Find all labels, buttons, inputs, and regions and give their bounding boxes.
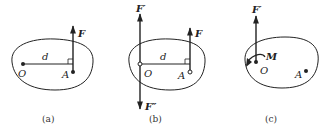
- label-O: O: [18, 68, 26, 79]
- right-angle-mark: [185, 59, 190, 64]
- force-translation-diagram: d O A F (a) d O A F F′ F″ (b) F′ M O A (…: [0, 0, 328, 136]
- label-d: d: [160, 51, 166, 62]
- point-O: [138, 62, 142, 66]
- point-O: [254, 60, 258, 64]
- point-A: [71, 70, 75, 74]
- point-O: [21, 62, 25, 66]
- right-angle-mark: [68, 59, 73, 64]
- caption-c: (c): [265, 114, 277, 124]
- label-d: d: [42, 51, 48, 62]
- point-A: [304, 69, 308, 73]
- label-A: A: [61, 69, 69, 80]
- label-A: A: [294, 69, 302, 80]
- label-F: F: [77, 28, 86, 39]
- label-O: O: [144, 68, 152, 79]
- label-F-double-prime: F″: [144, 101, 157, 112]
- panel-a: d O A F (a): [12, 26, 93, 124]
- caption-b: (b): [149, 114, 162, 124]
- label-F: F: [194, 28, 203, 39]
- caption-a: (a): [42, 114, 54, 124]
- label-M: M: [265, 51, 278, 62]
- point-A: [188, 70, 192, 74]
- label-F-prime: F′: [135, 3, 146, 14]
- panel-b: d O A F F′ F″ (b): [129, 3, 205, 124]
- label-F-prime: F′: [251, 4, 262, 15]
- label-A: A: [177, 70, 185, 81]
- label-O: O: [260, 65, 268, 76]
- panel-c: F′ M O A (c): [245, 4, 318, 124]
